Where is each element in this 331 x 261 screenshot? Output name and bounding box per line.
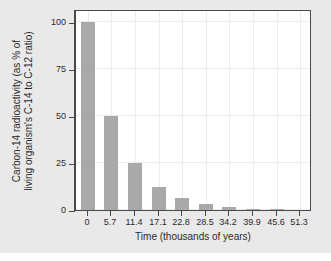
x-tick-label: 51.3 — [282, 218, 316, 227]
gridline-horizontal — [76, 68, 310, 69]
page-bottom-strip — [0, 253, 331, 261]
y-tick-label: 50 — [56, 112, 66, 121]
y-tick-mark — [69, 211, 75, 212]
gridline-vertical — [206, 11, 207, 210]
x-tick-mark — [205, 211, 206, 216]
y-tick-label: 75 — [56, 65, 66, 74]
x-tick-mark — [181, 211, 182, 216]
x-tick-mark — [158, 211, 159, 216]
y-tick-label: 25 — [56, 159, 66, 168]
x-tick-mark — [228, 211, 229, 216]
gridline-horizontal — [76, 21, 310, 22]
y-tick-mark — [69, 117, 75, 118]
x-tick-mark — [299, 211, 300, 216]
plot-area — [75, 10, 311, 211]
x-tick-mark — [87, 211, 88, 216]
bar — [128, 163, 142, 210]
x-tick-mark — [110, 211, 111, 216]
y-axis-line — [74, 10, 75, 211]
y-tick-mark — [69, 23, 75, 24]
bar — [152, 187, 166, 210]
plot-inner — [76, 11, 310, 210]
y-tick-label: 100 — [51, 18, 66, 27]
bar — [175, 198, 189, 210]
x-tick-mark — [134, 211, 135, 216]
x-tick-mark — [252, 211, 253, 216]
x-axis-title: Time (thousands of years) — [75, 231, 311, 242]
y-axis-title: Carbon-14 radioactivity (as % of living … — [11, 10, 35, 211]
y-axis-title-line-2: living organism's C-14 to C-12 ratio) — [24, 31, 34, 190]
y-tick-mark — [69, 70, 75, 71]
y-tick-label: 0 — [61, 206, 66, 215]
bar — [81, 22, 95, 210]
y-axis-title-line-1: Carbon-14 radioactivity (as % of — [12, 39, 22, 181]
gridline-vertical — [253, 11, 254, 210]
bar — [104, 116, 118, 210]
gridline-vertical — [277, 11, 278, 210]
gridline-vertical — [182, 11, 183, 210]
gridline-vertical — [300, 11, 301, 210]
gridline-vertical — [229, 11, 230, 210]
y-tick-mark — [69, 164, 75, 165]
chart-figure: 025507510005.711.417.122.828.534.239.945… — [0, 0, 331, 261]
gridline-vertical — [159, 11, 160, 210]
x-tick-mark — [276, 211, 277, 216]
